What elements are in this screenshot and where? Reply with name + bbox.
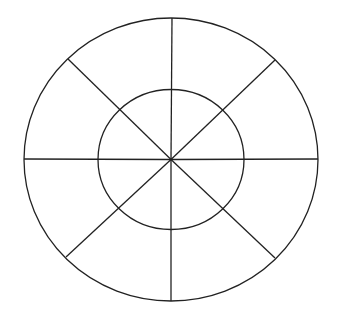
wheel-diagram [0, 0, 338, 318]
